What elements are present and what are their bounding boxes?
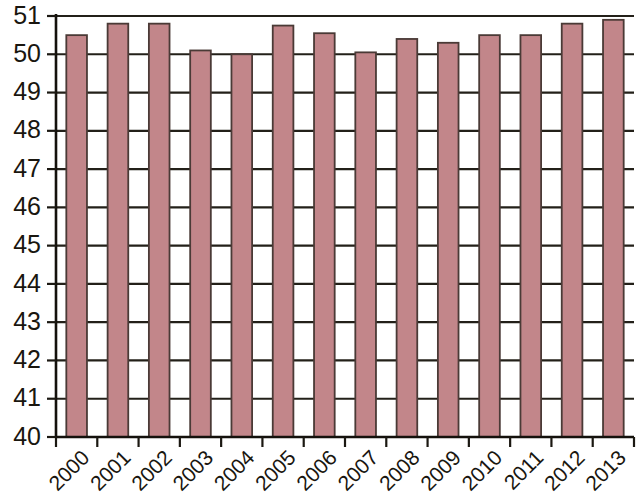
bar-2002: [149, 24, 170, 437]
bar-2005: [273, 26, 294, 437]
y-tick-label-40: 40: [13, 422, 41, 450]
bar-2004: [231, 54, 252, 437]
bar-2007: [355, 52, 376, 437]
y-tick-label-41: 41: [13, 383, 41, 411]
bar-2001: [108, 24, 129, 437]
bar-2010: [479, 35, 500, 437]
bar-2000: [66, 35, 87, 437]
bar-chart-figure: 404142434445464748495051 200020012002200…: [0, 0, 636, 504]
bar-2008: [397, 39, 418, 437]
chart-canvas: 404142434445464748495051 200020012002200…: [0, 0, 636, 504]
y-tick-label-48: 48: [13, 115, 41, 143]
bar-2006: [314, 33, 335, 437]
y-tick-label-51: 51: [13, 1, 41, 29]
y-tick-label-50: 50: [13, 39, 41, 67]
y-tick-label-46: 46: [13, 192, 41, 220]
y-tick-label-44: 44: [13, 269, 41, 297]
y-tick-label-47: 47: [13, 154, 41, 182]
bar-2011: [520, 35, 541, 437]
y-tick-label-42: 42: [13, 345, 41, 373]
bar-2012: [562, 24, 583, 437]
bar-2003: [190, 50, 211, 437]
y-tick-label-43: 43: [13, 307, 41, 335]
bar-2013: [603, 20, 624, 437]
y-tick-label-49: 49: [13, 77, 41, 105]
y-tick-label-45: 45: [13, 230, 41, 258]
bar-2009: [438, 43, 459, 437]
